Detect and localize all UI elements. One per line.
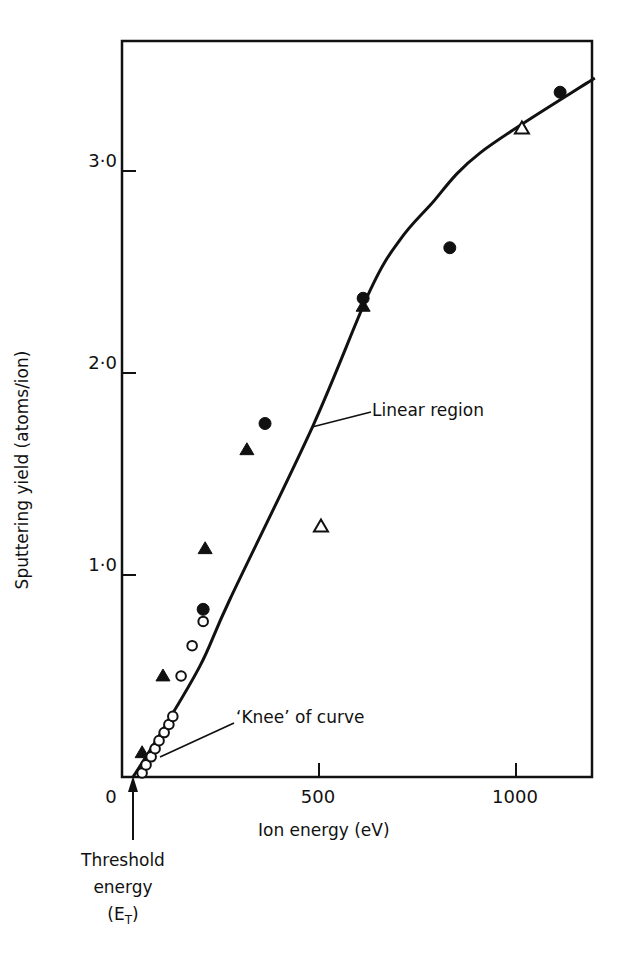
- filled-triangle-marker: [156, 669, 170, 681]
- threshold-subscript: T: [125, 913, 132, 927]
- chart-canvas: [0, 0, 625, 957]
- threshold-annotation: Threshold energy (ET): [81, 847, 165, 934]
- open-circle-marker: [176, 671, 186, 681]
- y-tick-2: 2·0: [57, 352, 117, 373]
- filled-circle-marker: [554, 86, 566, 98]
- fitted-curve: [133, 78, 595, 777]
- y-axis-label: Sputtering yield (atoms/ion): [12, 351, 32, 590]
- threshold-e: (E: [107, 904, 124, 924]
- x-axis-label: Ion energy (eV): [258, 820, 390, 840]
- linear-region-leader: [312, 412, 371, 427]
- threshold-line-1: Threshold: [81, 847, 165, 874]
- x-tick-500: 500: [278, 786, 358, 807]
- filled-triangle-marker: [240, 443, 254, 455]
- x-tick-0: 0: [71, 786, 151, 807]
- filled-circle-marker: [444, 242, 456, 254]
- data-markers: [135, 86, 566, 778]
- filled-triangle-marker: [198, 542, 212, 554]
- filled-circle-marker: [259, 418, 271, 430]
- open-circle-marker: [187, 641, 197, 651]
- open-circle-marker: [198, 617, 208, 627]
- filled-circle-marker: [197, 603, 209, 615]
- linear-region-annotation: Linear region: [372, 400, 484, 420]
- axis-ticks: [122, 171, 516, 777]
- y-tick-1: 1·0: [57, 554, 117, 575]
- y-tick-3: 3·0: [57, 150, 117, 171]
- knee-annotation: ‘Knee’ of curve: [236, 707, 364, 727]
- threshold-close: ): [132, 904, 139, 924]
- plot-frame: [122, 41, 592, 777]
- open-circle-marker: [168, 712, 178, 722]
- x-tick-1000: 1000: [475, 786, 555, 807]
- open-triangle-marker: [314, 520, 328, 532]
- threshold-line-2: energy: [81, 874, 165, 901]
- threshold-symbol: (ET): [81, 901, 165, 934]
